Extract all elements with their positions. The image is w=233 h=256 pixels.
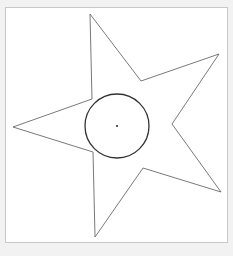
drawing-stage bbox=[0, 0, 233, 256]
drawing-canvas[interactable] bbox=[0, 0, 233, 256]
center-point[interactable] bbox=[116, 125, 118, 127]
